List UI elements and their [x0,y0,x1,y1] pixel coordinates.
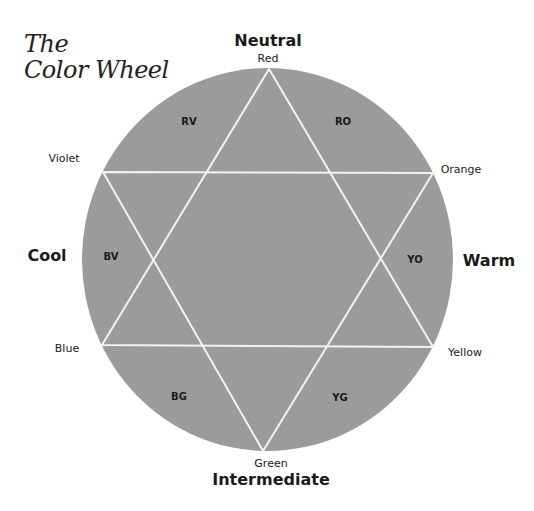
segment-yo: YO [407,254,422,265]
color-wheel [0,0,534,511]
segment-bv: BV [104,251,119,262]
label-yellow: Yellow [448,346,482,359]
category-cool: Cool [27,246,66,265]
segment-ro: RO [335,116,351,127]
category-intermediate: Intermediate [212,470,330,489]
category-warm: Warm [463,251,515,270]
segment-yg: YG [332,392,347,403]
category-neutral: Neutral [234,31,301,50]
label-green: Green [254,457,287,470]
segment-bg: BG [171,391,187,402]
wheel-circle [82,68,453,451]
label-violet: Violet [48,152,79,165]
label-red: Red [258,52,279,65]
label-orange: Orange [441,163,482,176]
segment-rv: RV [181,116,196,127]
label-blue: Blue [55,342,79,355]
